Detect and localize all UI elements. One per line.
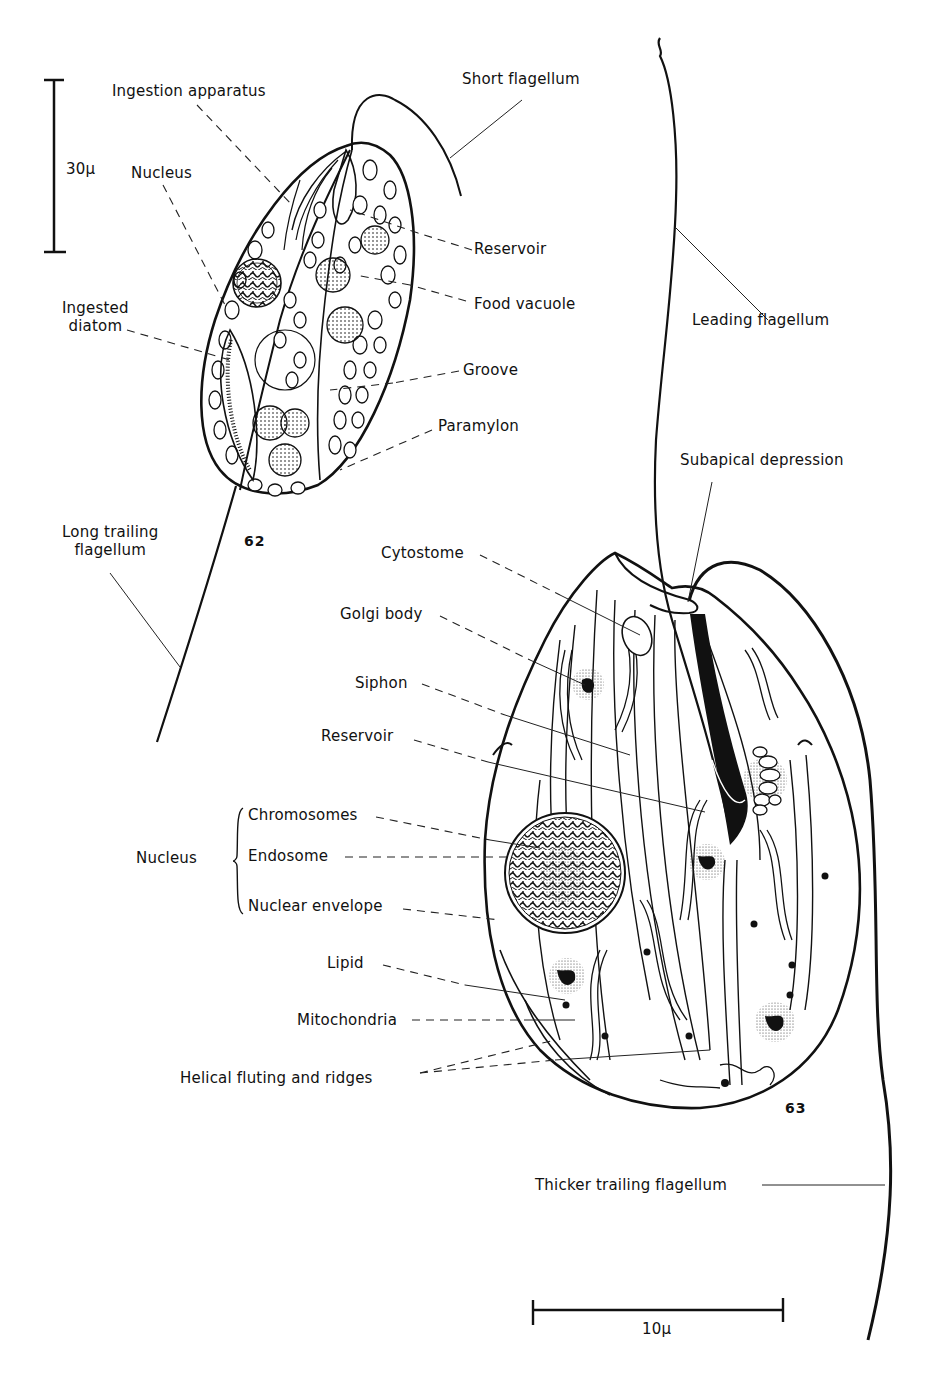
diagram-artwork: 62 [0,0,928,1376]
scale-bar-30 [44,80,66,252]
label-reservoir-63: Reservoir [321,729,393,744]
label-golgi-body: Golgi body [340,607,423,622]
label-siphon: Siphon [355,676,408,691]
label-lipid: Lipid [327,956,364,971]
label-nuclear-envelope: Nuclear envelope [248,899,383,914]
label-leading-flagellum: Leading flagellum [692,313,829,328]
label-short-flagellum: Short flagellum [462,72,580,87]
cell-63 [485,38,891,1340]
label-nucleus-62: Nucleus [131,166,192,181]
label-paramylon: Paramylon [438,419,519,434]
label-ingestion-apparatus: Ingestion apparatus [112,84,266,99]
label-long-trailing-flagellum: Long trailing flagellum [62,523,158,559]
label-helical-fluting: Helical fluting and ridges [180,1071,373,1086]
label-reservoir-62: Reservoir [474,242,546,257]
brace-icon [232,806,246,916]
label-chromosomes: Chromosomes [248,808,358,823]
scale-bar-30-label: 30μ [66,162,95,177]
label-thicker-trailing-flagellum: Thicker trailing flagellum [535,1178,727,1193]
label-mitochondria: Mitochondria [297,1013,397,1028]
label-ingested-diatom: Ingested diatom [62,299,129,335]
label-food-vacuole: Food vacuole [474,297,576,312]
figure-number-63: 63 [785,1100,806,1116]
label-subapical-depression: Subapical depression [680,453,844,468]
label-groove: Groove [463,363,518,378]
scale-bar-10-label: 10μ [642,1322,671,1337]
label-cytostome: Cytostome [381,546,464,561]
label-nucleus-63: Nucleus [136,851,197,866]
label-endosome: Endosome [248,849,328,864]
figure-number-62: 62 [244,533,265,549]
cell-62 [157,95,461,742]
